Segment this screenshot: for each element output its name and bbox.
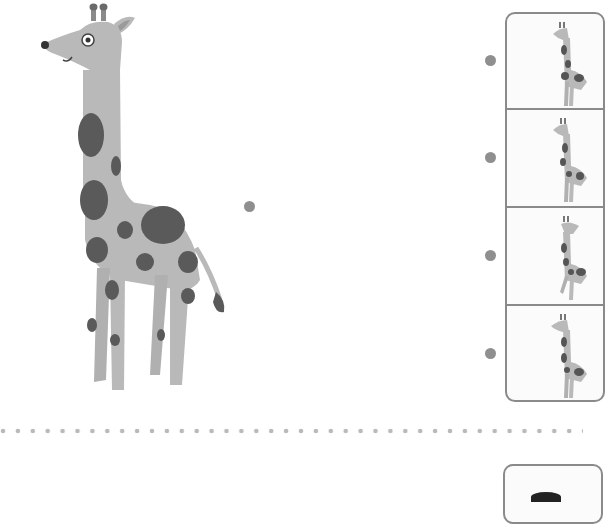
option-cell-4[interactable]	[507, 306, 603, 402]
options-panel	[505, 12, 605, 402]
small-giraffe-icon	[551, 20, 601, 106]
dotted-divider	[0, 428, 583, 434]
option-cell-1[interactable]	[507, 14, 603, 110]
option-cell-2[interactable]	[507, 110, 603, 208]
next-item-partial	[531, 492, 561, 502]
option-dot-4[interactable]	[485, 348, 496, 359]
option-cell-3[interactable]	[507, 208, 603, 306]
option-dot-2[interactable]	[485, 152, 496, 163]
next-options-panel	[503, 464, 603, 524]
small-giraffe-icon	[551, 116, 601, 202]
small-giraffe-icon	[551, 214, 601, 300]
source-match-dot[interactable]	[244, 201, 255, 212]
giraffe-illustration	[30, 0, 240, 400]
small-giraffe-icon	[551, 312, 601, 398]
option-dot-3[interactable]	[485, 250, 496, 261]
option-dot-1[interactable]	[485, 55, 496, 66]
